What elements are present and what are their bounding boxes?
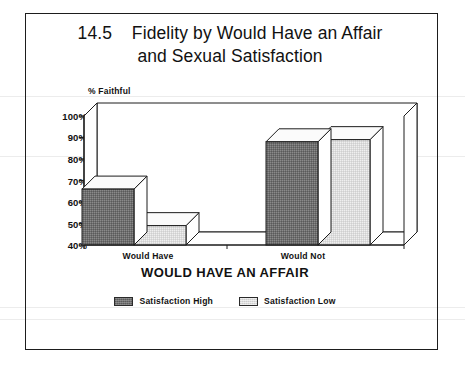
x-axis-title: WOULD HAVE AN AFFAIR xyxy=(60,265,390,280)
y-tick-label-50: 50% xyxy=(45,219,87,230)
category-label-would-have: Would Have xyxy=(100,251,196,261)
legend-swatch-icon-low xyxy=(239,297,258,306)
legend-entry-satisfaction-high: Satisfaction High xyxy=(114,296,213,306)
y-tick-label-70: 70% xyxy=(45,176,87,187)
y-tick-label-40: 40% xyxy=(45,240,87,251)
y-tick-label-90: 90% xyxy=(45,132,87,143)
legend-label-high: Satisfaction High xyxy=(139,296,213,306)
chart-legend: Satisfaction High Satisfaction Low xyxy=(60,296,390,306)
y-axis-label: % Faithful xyxy=(88,86,131,96)
chart-title: 14.5 Fidelity by Would Have an Affair an… xyxy=(30,22,430,68)
chart-title-line-2: and Sexual Satisfaction xyxy=(30,45,430,68)
y-tick-label-60: 60% xyxy=(45,197,87,208)
legend-label-low: Satisfaction Low xyxy=(264,296,335,306)
y-tick-label-80: 80% xyxy=(45,154,87,165)
legend-swatch-icon-high xyxy=(114,297,133,306)
legend-entry-satisfaction-low: Satisfaction Low xyxy=(239,296,335,306)
category-label-would-not: Would Not xyxy=(255,251,351,261)
chart-title-line-1: 14.5 Fidelity by Would Have an Affair xyxy=(30,22,430,45)
y-tick-label-100: 100% xyxy=(45,111,87,122)
